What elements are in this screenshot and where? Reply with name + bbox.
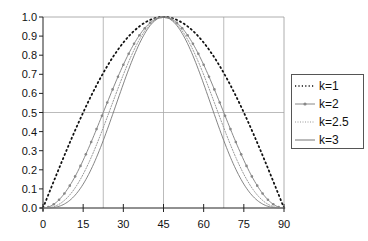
x-tick-label: 0 — [40, 218, 46, 230]
data-marker — [256, 184, 259, 187]
data-marker — [213, 88, 216, 91]
y-tick-label: 1.0 — [22, 11, 37, 23]
gridlines — [43, 17, 284, 208]
legend: k=1 k=2 k=2.5 k=3 — [291, 74, 364, 149]
data-marker — [90, 141, 93, 144]
data-marker — [117, 75, 120, 78]
legend-item-k1: k=1 — [294, 78, 339, 94]
legend-item-k2: k=2 — [294, 96, 339, 112]
data-marker — [186, 34, 189, 37]
legend-item-k2-5: k=2.5 — [294, 114, 349, 130]
data-marker — [58, 198, 61, 201]
data-marker — [251, 175, 254, 178]
y-tick-label: 0.4 — [22, 126, 37, 138]
data-marker — [122, 63, 125, 66]
data-marker — [245, 165, 248, 168]
y-tick-label: 0.2 — [22, 164, 37, 176]
solid-line-icon — [294, 135, 316, 145]
y-tick-label: 0.5 — [22, 107, 37, 119]
data-marker — [197, 52, 200, 55]
x-tick-label: 90 — [278, 218, 290, 230]
data-marker — [79, 165, 82, 168]
data-marker — [138, 34, 141, 37]
data-marker — [208, 75, 211, 78]
y-tick-label: 0.0 — [22, 202, 37, 214]
data-marker — [267, 198, 270, 201]
data-marker — [192, 43, 195, 46]
data-marker — [74, 175, 77, 178]
dotted-gray-line-icon — [294, 117, 316, 127]
y-axis-ticks: 0.00.10.20.30.40.50.60.70.80.91.0 — [22, 11, 43, 214]
data-marker — [229, 128, 232, 131]
legend-label: k=3 — [319, 133, 339, 147]
data-marker — [95, 128, 98, 131]
x-tick-label: 75 — [238, 218, 250, 230]
data-marker — [63, 192, 66, 195]
legend-item-k3: k=3 — [294, 132, 339, 148]
data-marker — [101, 115, 104, 118]
y-tick-label: 0.6 — [22, 87, 37, 99]
x-tick-label: 45 — [157, 218, 169, 230]
y-tick-label: 0.8 — [22, 49, 37, 61]
data-marker — [127, 52, 130, 55]
legend-label: k=2.5 — [319, 115, 349, 129]
data-marker — [240, 153, 243, 156]
data-marker — [85, 153, 88, 156]
y-tick-label: 0.3 — [22, 145, 37, 157]
legend-label: k=1 — [319, 79, 339, 93]
legend-label: k=2 — [319, 97, 339, 111]
data-marker — [272, 203, 275, 206]
marker-line-icon — [294, 99, 316, 109]
x-tick-label: 30 — [117, 218, 129, 230]
x-tick-label: 60 — [198, 218, 210, 230]
y-tick-label: 0.9 — [22, 30, 37, 42]
data-marker — [224, 115, 227, 118]
data-marker — [235, 141, 238, 144]
x-tick-label: 15 — [77, 218, 89, 230]
data-marker — [52, 203, 55, 206]
data-marker — [111, 88, 114, 91]
data-marker — [106, 101, 109, 104]
y-tick-label: 0.7 — [22, 68, 37, 80]
dotted-line-icon — [294, 81, 316, 91]
y-tick-label: 0.1 — [22, 183, 37, 195]
data-marker — [202, 63, 205, 66]
data-marker — [261, 192, 264, 195]
data-marker — [218, 101, 221, 104]
axes — [40, 17, 284, 211]
data-marker — [133, 43, 136, 46]
data-marker — [68, 184, 71, 187]
